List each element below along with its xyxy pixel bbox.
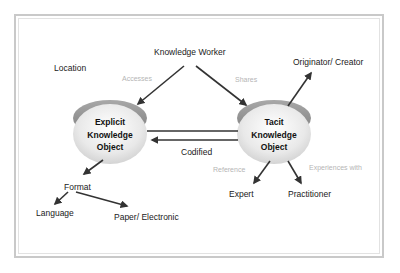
relation-shares: Shares	[235, 76, 257, 83]
explicit-line-1: Explicit	[75, 116, 145, 129]
arrow-expert	[254, 161, 270, 183]
node-originator-creator: Originator/ Creator	[293, 58, 363, 67]
explicit-line-3: Object	[75, 141, 145, 154]
diagram-canvas	[0, 0, 400, 273]
node-expert: Expert	[229, 190, 254, 199]
tacit-line-2: Knowledge	[239, 129, 309, 142]
arrow-shares	[196, 66, 246, 105]
arrow-originator	[288, 73, 311, 106]
node-practitioner: Practitioner	[288, 190, 331, 199]
arrow-format	[84, 160, 103, 174]
explicit-knowledge-object-label: Explicit Knowledge Object	[75, 116, 145, 154]
tacit-line-1: Tacit	[239, 116, 309, 129]
node-language: Language	[36, 209, 74, 218]
tacit-line-3: Object	[239, 141, 309, 154]
relation-accesses: Accesses	[122, 75, 152, 82]
arrow-paper-electronic	[76, 192, 127, 206]
node-paper-electronic: Paper/ Electronic	[114, 213, 179, 222]
tacit-knowledge-object-label: Tacit Knowledge Object	[239, 116, 309, 154]
arrow-language	[55, 192, 68, 204]
arrow-accesses	[138, 66, 184, 104]
arrow-practitioner	[288, 161, 301, 183]
relation-experiences-with: Experiences with	[309, 164, 362, 171]
node-knowledge-worker: Knowledge Worker	[154, 48, 226, 57]
node-location: Location	[54, 64, 86, 73]
relation-reference: Reference	[213, 166, 245, 173]
node-format: Format	[64, 183, 91, 192]
explicit-line-2: Knowledge	[75, 129, 145, 142]
relation-codified: Codified	[181, 148, 212, 157]
